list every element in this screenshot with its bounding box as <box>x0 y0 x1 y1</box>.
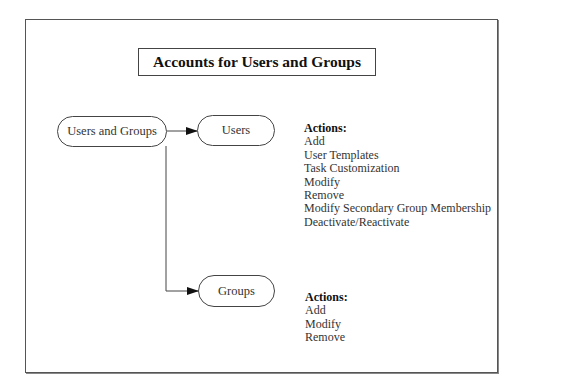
actions-header: Actions: <box>304 122 491 135</box>
action-item: Modify <box>305 318 348 331</box>
action-item: Modify Secondary Group Membership <box>304 202 491 215</box>
groups-actions-list: Actions: Add Modify Remove <box>305 291 348 345</box>
node-label: Groups <box>218 284 255 299</box>
node-users-and-groups: Users and Groups <box>57 116 167 147</box>
node-groups: Groups <box>198 275 275 307</box>
action-item: Modify <box>304 176 491 189</box>
node-label: Users and Groups <box>67 124 157 139</box>
users-actions-list: Actions: Add User Templates Task Customi… <box>304 122 491 229</box>
node-label: Users <box>222 123 250 138</box>
action-item: Add <box>305 304 348 317</box>
edge-root-groups <box>166 146 198 291</box>
action-item: User Templates <box>304 149 491 162</box>
action-item: Remove <box>305 331 348 344</box>
action-item: Task Customization <box>304 162 491 175</box>
actions-header: Actions: <box>305 291 348 304</box>
action-item: Add <box>304 135 491 148</box>
node-users: Users <box>197 115 275 146</box>
action-item: Deactivate/Reactivate <box>304 216 491 229</box>
action-item: Remove <box>304 189 491 202</box>
